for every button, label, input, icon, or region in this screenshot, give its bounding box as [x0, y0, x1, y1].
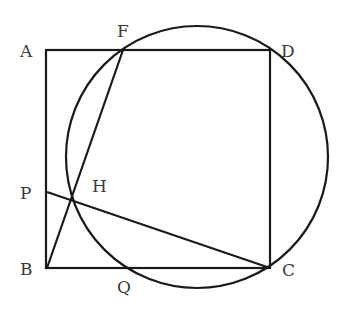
segment-bf	[47, 50, 123, 268]
label-f: F	[117, 21, 129, 41]
label-c: C	[282, 260, 295, 280]
label-p: P	[20, 183, 31, 203]
segment-pc	[47, 192, 270, 268]
label-q: Q	[117, 277, 131, 297]
circle	[66, 26, 328, 288]
square-abcd	[46, 50, 270, 268]
label-b: B	[20, 259, 33, 279]
label-h: H	[92, 176, 107, 196]
label-d: D	[281, 41, 295, 61]
geometry-diagram: A B C D F P H Q	[0, 0, 354, 320]
label-a: A	[19, 41, 33, 61]
